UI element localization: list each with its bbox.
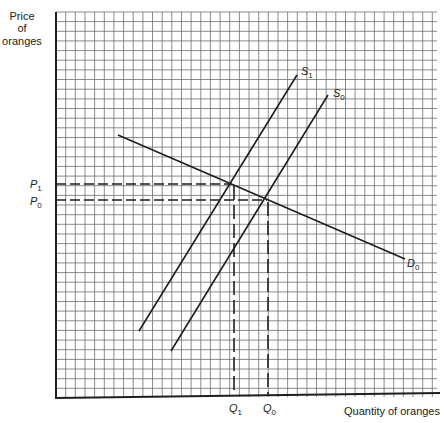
supply-curve-s0 <box>171 95 328 351</box>
p1-label: P1 <box>30 178 42 193</box>
supply-curve-s1 <box>139 75 297 331</box>
d0-label: D0 <box>407 257 420 272</box>
x-axis <box>55 393 440 398</box>
y-axis-label-line-3: oranges <box>2 35 42 47</box>
supply-demand-chart: Price of oranges Quantity of oranges P1 … <box>0 0 444 423</box>
p0-label: P0 <box>30 195 42 210</box>
q0-label: Q0 <box>263 402 277 417</box>
q1-label: Q1 <box>229 402 243 417</box>
y-axis-label-line-1: Price <box>9 10 34 22</box>
y-axis-label-line-2: of <box>17 22 27 34</box>
graph-paper-grid <box>56 12 437 397</box>
demand-curve-d0 <box>118 135 405 259</box>
x-axis-label: Quantity of oranges <box>344 405 441 417</box>
